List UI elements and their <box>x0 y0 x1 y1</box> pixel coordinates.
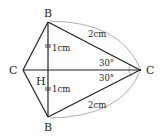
label-bottom-half: 1cm <box>52 84 70 94</box>
label-lower-side: 2cm <box>88 100 106 110</box>
label-C-left: C <box>9 64 17 77</box>
label-H: H <box>36 75 46 88</box>
lower-length-arc <box>50 72 140 118</box>
label-upper-side: 2cm <box>88 29 106 39</box>
segment-CB-top-left <box>23 22 48 70</box>
label-B-top: B <box>44 7 52 20</box>
kite-diagram: B B C C H 1cm 1cm 2cm 2cm 30° 30° <box>0 0 164 138</box>
label-upper-angle: 30° <box>99 58 114 68</box>
label-C-right: C <box>146 64 154 77</box>
label-lower-angle: 30° <box>99 73 114 83</box>
point-C-right <box>139 69 141 71</box>
label-B-bottom: B <box>44 121 52 134</box>
label-top-half: 1cm <box>52 43 70 53</box>
